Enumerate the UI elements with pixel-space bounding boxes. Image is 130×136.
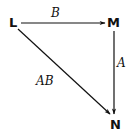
arrow-label-A: A — [116, 56, 126, 70]
arrow-L-to-N — [18, 29, 110, 114]
node-M: M — [107, 15, 120, 30]
arrow-label-AB: AB — [35, 74, 54, 88]
commutative-diagram: L M N B A AB — [0, 0, 130, 136]
node-N: N — [110, 117, 121, 132]
node-L: L — [9, 15, 17, 30]
arrow-label-B: B — [50, 6, 60, 20]
